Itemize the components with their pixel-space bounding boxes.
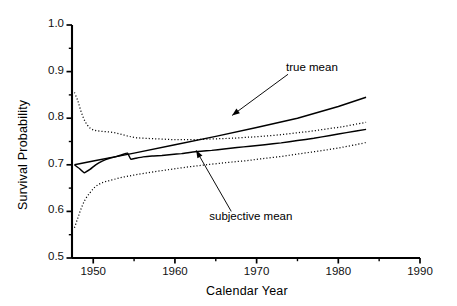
x-tick-label: 1960 [150,265,200,277]
x-axis-title: Calendar Year [206,284,288,298]
y-tick-label: 0.5 [22,250,64,262]
y-tick-label: 0.6 [22,203,64,215]
annotation-arrowhead-true-mean [232,109,240,116]
y-tick-label: 1.0 [22,17,64,29]
plot-area [0,0,457,306]
annotation-leader-subjective-mean [196,150,231,211]
series-line-true-mean [74,97,366,165]
y-tick-label: 0.7 [22,157,64,169]
x-tick-label: 1970 [232,265,282,277]
survival-probability-chart: Survival Probability Calendar Year 0.50.… [0,0,457,306]
annotation-label-true-mean: true mean [286,61,338,73]
annotation-leader-true-mean [232,74,288,115]
x-tick-label: 1950 [68,265,118,277]
series-line-upper-confidence-band [74,93,366,140]
y-tick-label: 0.9 [22,64,64,76]
x-tick-label: 1980 [313,265,363,277]
x-tick-label: 1990 [395,265,445,277]
y-tick-label: 0.8 [22,110,64,122]
annotation-label-subjective-mean: subjective mean [209,210,292,222]
